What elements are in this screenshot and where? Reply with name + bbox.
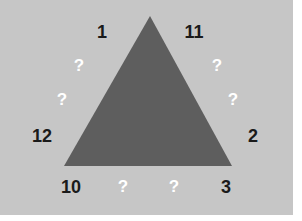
number-label: 3 [221, 178, 231, 196]
unknown-value-label: ? [57, 91, 67, 109]
number-label: 11 [184, 23, 203, 41]
number-label: 12 [32, 127, 52, 145]
unknown-value-label: ? [228, 91, 238, 109]
triangle-shape [64, 16, 232, 166]
unknown-value-label: ? [118, 178, 128, 196]
unknown-value-label: ? [212, 57, 222, 75]
number-label: 10 [61, 178, 81, 196]
triangle-figure [0, 0, 302, 221]
unknown-value-label: ? [169, 178, 179, 196]
number-label: 1 [97, 23, 107, 41]
number-label: 2 [248, 127, 258, 145]
unknown-value-label: ? [74, 57, 84, 75]
